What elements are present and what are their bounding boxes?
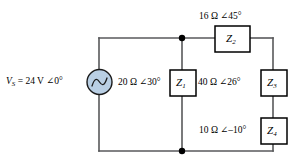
source-label-subscript: S [12, 80, 16, 88]
z4-value-label: 10 Ω ∠–10° [199, 126, 246, 136]
source-label-symbol: V [6, 76, 12, 86]
z2-box-label-subscript: 2 [232, 38, 236, 46]
z2-box-label: Z2 [226, 33, 236, 44]
circuit-diagram: VS = 24 V ∠0° 20 Ω ∠30° 16 Ω ∠45° 40 Ω ∠… [0, 0, 297, 168]
source-label-value: = 24 V ∠0° [15, 76, 62, 86]
z1-value-label: 20 Ω ∠30° [118, 78, 161, 88]
z3-box-label: Z3 [267, 77, 277, 88]
z2-value-label: 16 Ω ∠45° [199, 12, 242, 22]
z3-value-label: 40 Ω ∠26° [198, 78, 241, 88]
source-label: VS = 24 V ∠0° [6, 77, 63, 87]
node-dot-top [179, 35, 185, 41]
node-dot-bottom [179, 148, 185, 154]
z1-box-label: Z1 [176, 77, 186, 88]
z4-box-label-subscript: 4 [273, 130, 277, 138]
z1-box-label-subscript: 1 [182, 82, 186, 90]
z3-box-label-subscript: 3 [273, 82, 277, 90]
z4-box-label: Z4 [267, 125, 277, 136]
